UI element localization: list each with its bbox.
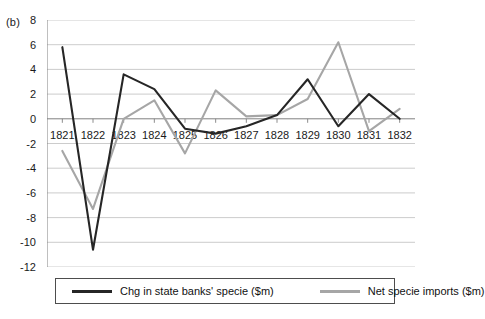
y-axis-tick-label: -4 — [8, 162, 36, 174]
y-axis-tick-label: -12 — [8, 261, 36, 273]
axis-tickmarks — [62, 119, 399, 123]
legend-label-state-banks-specie: Chg in state banks' specie ($m) — [120, 285, 274, 297]
legend-swatch-black — [72, 290, 112, 293]
plot-area — [47, 20, 415, 267]
data-series-line — [62, 42, 399, 209]
legend-swatch-gray — [320, 290, 360, 293]
y-axis-tick-label: 0 — [8, 113, 36, 125]
y-axis-tick-label: 8 — [8, 14, 36, 26]
y-axis-tick-label: 2 — [8, 88, 36, 100]
y-axis-tick-label: -2 — [8, 138, 36, 150]
legend-label-net-specie-imports: Net specie imports ($m) — [368, 285, 485, 297]
chart-legend: Chg in state banks' specie ($m) Net spec… — [55, 278, 395, 304]
gridlines — [47, 20, 415, 267]
y-axis-tick-label: -8 — [8, 212, 36, 224]
y-axis-tick-label: -6 — [8, 187, 36, 199]
y-axis-tick-label: -10 — [8, 236, 36, 248]
y-axis-tick-label: 6 — [8, 39, 36, 51]
data-series-layer — [62, 42, 399, 249]
y-axis-tick-label: 4 — [8, 63, 36, 75]
legend-item-state-banks-specie: Chg in state banks' specie ($m) — [72, 285, 274, 297]
legend-item-net-specie-imports: Net specie imports ($m) — [320, 285, 485, 297]
